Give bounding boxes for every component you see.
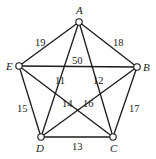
vertex-b-label: B [143, 61, 150, 73]
edge-e-b [19, 66, 137, 67]
vertex-a-label: A [75, 4, 83, 16]
edge-a-b [79, 22, 137, 67]
vertex-d-label: D [35, 142, 44, 154]
edge-weight-label: 50 [72, 55, 83, 66]
vertex-a-circle [76, 19, 82, 25]
edge-a-e [19, 22, 79, 66]
edge-weight-label: 13 [72, 141, 83, 152]
vertex-d-circle [38, 134, 44, 140]
edge-weight-label: 18 [113, 37, 124, 48]
weighted-graph-diagram: 19185011121517141613 ABCDE [0, 0, 156, 159]
edge-weight-label: 16 [83, 98, 94, 109]
edge-weight-label: 19 [35, 37, 46, 48]
edge-e-d [19, 66, 41, 137]
edge-b-c [113, 67, 137, 137]
edge-weight-label: 14 [62, 98, 73, 109]
edge-weight-label: 12 [93, 75, 104, 86]
edge-weight-label: 17 [129, 103, 140, 114]
vertex-c-circle [110, 134, 116, 140]
vertex-c-label: C [110, 142, 118, 154]
vertex-b-circle [134, 64, 140, 70]
edge-weight-label: 15 [17, 103, 28, 114]
vertex-e-circle [16, 63, 22, 69]
edge-weight-label: 11 [55, 75, 65, 86]
vertex-e-label: E [5, 60, 13, 72]
